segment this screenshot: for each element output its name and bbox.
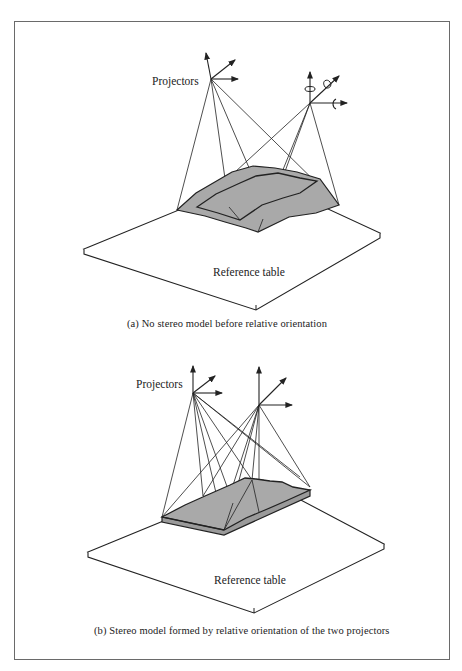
rotation-arrows-icon-right-a	[305, 72, 347, 109]
caption-a: (a) No stereo model before relative orie…	[127, 318, 327, 329]
diagram-canvas	[0, 0, 462, 671]
projectors-label-a: Projectors	[152, 75, 199, 87]
axis-arrows-icon-left-a	[206, 53, 238, 79]
reference-table-label-b: Reference table	[214, 574, 286, 586]
projectors-label-b: Projectors	[136, 378, 183, 390]
caption-b: (b) Stereo model formed by relative orie…	[94, 625, 390, 636]
axis-arrows-icon-left-b	[193, 366, 222, 393]
reference-table-label-a: Reference table	[213, 266, 285, 278]
axis-arrows-icon-right-b	[259, 367, 292, 405]
